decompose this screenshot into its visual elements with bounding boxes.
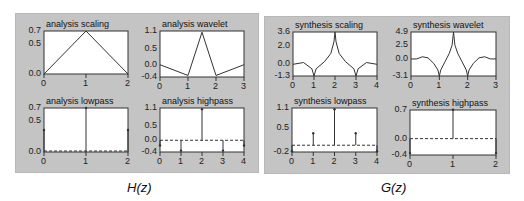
y-tick-label: 0.7 <box>388 104 407 114</box>
stem-marker <box>495 152 497 154</box>
x-tick-label: 2 <box>493 159 498 169</box>
x-tick-label: 0 <box>407 159 412 169</box>
stem-marker <box>452 109 454 111</box>
y-tick-label: -0.4 <box>388 149 407 159</box>
plot-title: synthesis highpass <box>412 98 488 108</box>
stem-marker <box>409 152 411 154</box>
y-tick-label: 0.0 <box>388 133 407 143</box>
x-tick-label: 1 <box>450 159 455 169</box>
